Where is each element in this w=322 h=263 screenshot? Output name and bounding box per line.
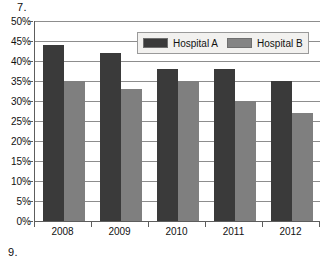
y-axis-tick-label: 35%: [1, 76, 31, 87]
x-axis-tick-label: 2012: [262, 226, 319, 242]
legend-label: Hospital A: [173, 38, 218, 49]
y-axis-tickmark: [28, 181, 33, 182]
y-axis-tickmark: [28, 141, 33, 142]
y-axis-tick-label: 45%: [1, 36, 31, 47]
y-axis-tick-label: 10%: [1, 176, 31, 187]
y-axis-tick-label: 15%: [1, 156, 31, 167]
question-number-top: 7.: [17, 1, 27, 13]
bar-group: [35, 21, 92, 221]
x-axis-tickmark: [319, 222, 320, 227]
y-axis-tickmark: [28, 121, 33, 122]
y-axis-tickmark: [28, 81, 33, 82]
question-number-bottom: 9.: [8, 246, 18, 258]
y-axis-tick-label: 0%: [1, 216, 31, 227]
chart-legend: Hospital AHospital B: [137, 32, 309, 54]
y-axis-tickmark: [28, 61, 33, 62]
bar-hospital-a-2011: [214, 69, 235, 221]
legend-swatch-icon: [143, 38, 168, 48]
bar-hospital-b-2008: [64, 81, 85, 221]
y-axis-tickmark: [28, 221, 33, 222]
y-axis-labels: 50%45%40%35%30%25%20%15%10%5%0%: [0, 21, 31, 221]
y-axis-tickmark: [28, 201, 33, 202]
y-axis-tick-label: 5%: [1, 196, 31, 207]
y-axis-tickmark: [28, 21, 33, 22]
bar-hospital-a-2009: [100, 53, 121, 221]
x-axis-tick-label: 2009: [91, 226, 148, 242]
y-axis-tick-label: 40%: [1, 56, 31, 67]
x-axis-tick-label: 2010: [148, 226, 205, 242]
bar-hospital-a-2010: [157, 69, 178, 221]
y-axis-tickmark: [28, 41, 33, 42]
y-axis-tickmark: [28, 161, 33, 162]
bar-hospital-b-2009: [121, 89, 142, 221]
y-axis-tick-label: 20%: [1, 136, 31, 147]
x-axis-labels: 20082009201020112012: [34, 226, 319, 242]
bar-hospital-b-2012: [292, 113, 313, 221]
bar-hospital-a-2012: [271, 81, 292, 221]
bar-hospital-b-2010: [178, 81, 199, 221]
y-axis-tick-label: 30%: [1, 96, 31, 107]
legend-entry: Hospital B: [227, 38, 303, 49]
y-axis-tick-label: 50%: [1, 16, 31, 27]
y-axis-tick-label: 25%: [1, 116, 31, 127]
bar-hospital-a-2008: [43, 45, 64, 221]
bar-hospital-b-2011: [235, 101, 256, 221]
legend-swatch-icon: [227, 38, 252, 48]
x-axis-tick-label: 2008: [34, 226, 91, 242]
legend-label: Hospital B: [257, 38, 303, 49]
x-axis-tick-label: 2011: [205, 226, 262, 242]
legend-entry: Hospital A: [143, 38, 218, 49]
bar-chart: 50%45%40%35%30%25%20%15%10%5%0% 20082009…: [0, 21, 322, 242]
y-axis-tickmark: [28, 101, 33, 102]
